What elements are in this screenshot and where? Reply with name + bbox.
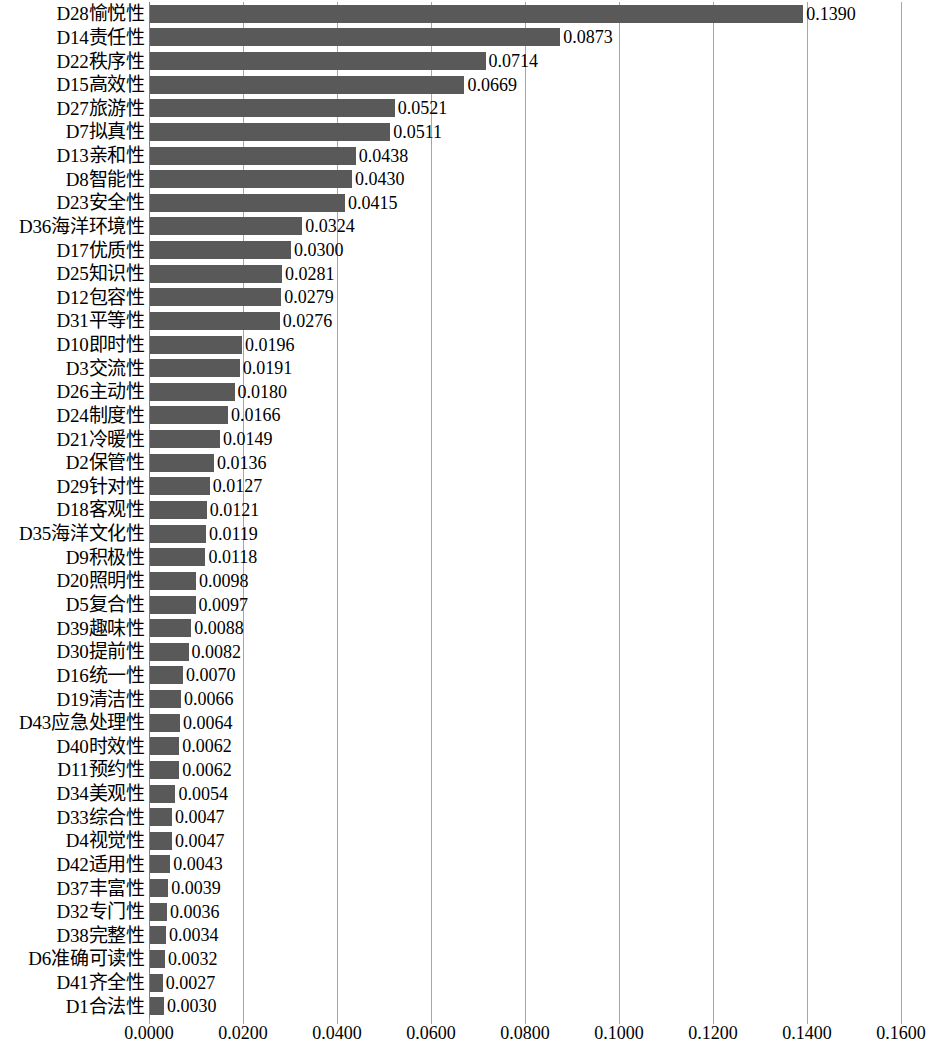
bar [150, 123, 390, 141]
bar-value-label: 0.0082 [192, 643, 242, 661]
bar [150, 974, 163, 992]
category-label: D8智能性 [66, 170, 145, 189]
bar-row: D19清洁性0.0066 [0, 687, 931, 711]
category-label: D20照明性 [56, 571, 145, 590]
bar [150, 454, 214, 472]
bar [150, 714, 180, 732]
bar-value-label: 0.0030 [167, 997, 217, 1015]
bar-value-label: 0.0415 [348, 194, 398, 212]
bar-value-label: 0.0166 [231, 406, 281, 424]
category-label: D18客观性 [56, 500, 145, 519]
bar-value-label: 0.0127 [213, 477, 263, 495]
bar-value-label: 0.1390 [806, 5, 856, 23]
bar [150, 170, 352, 188]
bar [150, 690, 181, 708]
category-label: D2保管性 [66, 453, 145, 472]
bar-value-label: 0.0062 [182, 761, 232, 779]
bar-value-label: 0.0196 [245, 336, 295, 354]
bar-value-label: 0.0714 [489, 52, 539, 70]
bar-row: D5复合性0.0097 [0, 593, 931, 617]
category-label: D13亲和性 [56, 146, 145, 165]
bar [150, 832, 172, 850]
bar-value-label: 0.0438 [359, 147, 409, 165]
bar [150, 359, 240, 377]
bar-row: D11预约性0.0062 [0, 758, 931, 782]
bar-row: D18客观性0.0121 [0, 498, 931, 522]
bar-row: D28愉悦性0.1390 [0, 2, 931, 26]
bar [150, 147, 356, 165]
bar [150, 643, 189, 661]
bar-row: D22秩序性0.0714 [0, 49, 931, 73]
bar-value-label: 0.0136 [217, 454, 267, 472]
x-tick-label: 0.0200 [218, 1024, 268, 1042]
bar [150, 737, 179, 755]
bar-row: D3交流性0.0191 [0, 356, 931, 380]
bar-row: D20照明性0.0098 [0, 569, 931, 593]
bar-value-label: 0.0036 [170, 903, 220, 921]
bar-row: D16统一性0.0070 [0, 664, 931, 688]
category-label: D36海洋环境性 [19, 217, 145, 236]
bar-value-label: 0.0119 [209, 525, 258, 543]
category-label: D43应急处理性 [19, 713, 145, 732]
bar-row: D43应急处理性0.0064 [0, 711, 931, 735]
bar-row: D6准确可读性0.0032 [0, 947, 931, 971]
bar-value-label: 0.0097 [199, 596, 249, 614]
bar-value-label: 0.0039 [171, 879, 221, 897]
category-label: D4视觉性 [66, 831, 145, 850]
bar-row: D23安全性0.0415 [0, 191, 931, 215]
bar-row: D9积极性0.0118 [0, 545, 931, 569]
x-axis-tick-labels: 0.00000.02000.04000.06000.08000.10000.12… [0, 1024, 931, 1054]
bar-value-label: 0.0276 [283, 312, 333, 330]
category-label: D1合法性 [66, 997, 145, 1016]
bar-value-label: 0.0511 [393, 123, 442, 141]
bar-value-label: 0.0669 [467, 76, 517, 94]
bar-row: D33综合性0.0047 [0, 805, 931, 829]
category-label: D34美观性 [56, 784, 145, 803]
category-label: D19清洁性 [56, 690, 145, 709]
bar-row: D25知识性0.0281 [0, 262, 931, 286]
bar-row: D41齐全性0.0027 [0, 971, 931, 995]
bar-row: D37丰富性0.0039 [0, 876, 931, 900]
bar [150, 383, 235, 401]
bar [150, 525, 206, 543]
bar-row: D7拟真性0.0511 [0, 120, 931, 144]
bar [150, 288, 281, 306]
x-tick-label: 0.0400 [312, 1024, 362, 1042]
bar [150, 879, 168, 897]
category-label: D15高效性 [56, 75, 145, 94]
bar-value-label: 0.0062 [182, 737, 232, 755]
x-tick-label: 0.1600 [876, 1024, 926, 1042]
x-tick-label: 0.1400 [782, 1024, 832, 1042]
bar-row: D15高效性0.0669 [0, 73, 931, 97]
category-label: D6准确可读性 [28, 949, 145, 968]
bar-row: D36海洋环境性0.0324 [0, 215, 931, 239]
bar-value-label: 0.0149 [223, 430, 273, 448]
bar-row: D17优质性0.0300 [0, 238, 931, 262]
bar-row: D35海洋文化性0.0119 [0, 522, 931, 546]
bar-chart: D28愉悦性0.1390D14责任性0.0873D22秩序性0.0714D15高… [0, 0, 931, 1056]
bar-row: D27旅游性0.0521 [0, 97, 931, 121]
bar [150, 52, 486, 70]
bar [150, 501, 207, 519]
bar-value-label: 0.0070 [186, 666, 236, 684]
bar-row: D4视觉性0.0047 [0, 829, 931, 853]
bar-row: D2保管性0.0136 [0, 451, 931, 475]
category-label: D28愉悦性 [56, 4, 145, 23]
category-label: D42适用性 [56, 855, 145, 874]
bar [150, 572, 196, 590]
bar-row: D29针对性0.0127 [0, 475, 931, 499]
category-label: D27旅游性 [56, 99, 145, 118]
bar-row: D12包容性0.0279 [0, 286, 931, 310]
bar-rows-layer: D28愉悦性0.1390D14责任性0.0873D22秩序性0.0714D15高… [0, 0, 931, 1056]
bar [150, 194, 345, 212]
bar [150, 808, 172, 826]
bar-row: D10即时性0.0196 [0, 333, 931, 357]
bar-row: D8智能性0.0430 [0, 167, 931, 191]
bar [150, 28, 560, 46]
category-label: D9积极性 [66, 548, 145, 567]
bar-value-label: 0.0054 [178, 785, 228, 803]
category-label: D26主动性 [56, 382, 145, 401]
category-label: D22秩序性 [56, 52, 145, 71]
bar-row: D14责任性0.0873 [0, 26, 931, 50]
category-label: D29针对性 [56, 477, 145, 496]
